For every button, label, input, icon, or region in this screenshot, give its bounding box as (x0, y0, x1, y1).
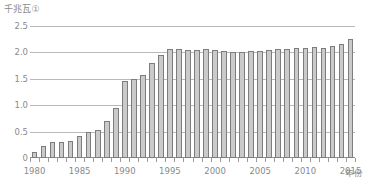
bar-series (30, 26, 355, 158)
x-axis-tick (48, 158, 49, 162)
y-axis-tick-label: 2.5 (2, 22, 28, 31)
x-axis-tick (220, 158, 221, 162)
x-axis-tick-label: 2005 (243, 166, 277, 176)
x-axis-tick (256, 158, 257, 162)
bar (113, 108, 119, 158)
x-axis-tick-labels: 19801985199019952000200520102015 (0, 166, 375, 180)
bar (230, 52, 236, 158)
x-axis-tick (319, 158, 320, 162)
x-axis-title: 年份 (345, 166, 363, 178)
x-axis-tick (183, 158, 184, 162)
bar (203, 49, 209, 158)
x-axis-tick (310, 158, 311, 162)
x-axis-tick-label: 2000 (198, 166, 232, 176)
bar (185, 50, 191, 158)
x-axis-tick-label: 2010 (288, 166, 322, 176)
x-axis-tick-label: 1985 (63, 166, 97, 176)
x-axis-tick (156, 158, 157, 162)
x-axis-tick (66, 158, 67, 162)
y-axis-tick-label: 0 (2, 154, 28, 163)
x-axis-tick (193, 158, 194, 162)
bar (212, 50, 218, 158)
bar (86, 132, 92, 158)
x-axis-tick (202, 158, 203, 162)
bar (257, 51, 263, 158)
bar (275, 49, 281, 158)
x-axis-tick (211, 158, 212, 162)
x-axis-tick-label: 1980 (18, 166, 52, 176)
bar (194, 50, 200, 158)
x-axis-tick (238, 158, 239, 162)
bar (239, 52, 245, 158)
x-axis-tick (102, 158, 103, 162)
bar (122, 81, 128, 158)
bar (149, 63, 155, 158)
y-axis-tick-label: 1.0 (2, 101, 28, 110)
bar (140, 75, 146, 158)
bar (50, 142, 56, 158)
x-axis-tick (229, 158, 230, 162)
bar (303, 48, 309, 158)
bar (339, 44, 345, 158)
x-axis-tick (147, 158, 148, 162)
x-axis-tick (138, 158, 139, 162)
chart-figure: 千兆瓦① 00.51.01.52.02.5 198019851990199520… (0, 0, 375, 191)
bar (131, 79, 137, 158)
bar (312, 47, 318, 158)
x-axis-tick (346, 158, 347, 162)
x-axis-tick (129, 158, 130, 162)
x-axis-tick (292, 158, 293, 162)
x-axis-tick (265, 158, 266, 162)
x-axis-tick (274, 158, 275, 162)
x-axis-tick (84, 158, 85, 162)
x-axis-tick (174, 158, 175, 162)
bar (330, 46, 336, 158)
plot-area (30, 26, 355, 158)
bar (221, 51, 227, 158)
bar (104, 121, 110, 158)
y-axis-tick-label: 1.5 (2, 75, 28, 84)
x-axis-tick-label: 1990 (108, 166, 142, 176)
bar (176, 49, 182, 158)
bar (59, 142, 65, 158)
x-axis-tick (337, 158, 338, 162)
x-axis-ticks (30, 158, 355, 163)
bar (284, 49, 290, 158)
y-axis-tick-label: 0.5 (2, 128, 28, 137)
x-axis-tick (75, 158, 76, 162)
bar (294, 48, 300, 158)
bar (158, 55, 164, 158)
bar (77, 136, 83, 158)
bar (248, 51, 254, 158)
bar (41, 146, 47, 158)
x-axis-tick (111, 158, 112, 162)
x-axis-tick (301, 158, 302, 162)
bar (95, 130, 101, 159)
y-axis-title: 千兆瓦① (4, 2, 40, 15)
x-axis-tick (328, 158, 329, 162)
x-axis-tick-label: 1995 (153, 166, 187, 176)
x-axis-tick (165, 158, 166, 162)
bar (321, 48, 327, 158)
bar (68, 141, 74, 158)
bar (266, 50, 272, 158)
x-axis-tick (30, 158, 31, 162)
x-axis-tick (39, 158, 40, 162)
y-axis-tick-labels: 00.51.01.52.02.5 (0, 26, 28, 158)
x-axis-tick (247, 158, 248, 162)
x-axis-tick (120, 158, 121, 162)
bar (167, 49, 173, 158)
x-axis-tick (57, 158, 58, 162)
x-axis-tick (355, 158, 356, 162)
y-axis-tick-label: 2.0 (2, 48, 28, 57)
bar (348, 39, 354, 158)
x-axis-tick (93, 158, 94, 162)
x-axis-tick (283, 158, 284, 162)
